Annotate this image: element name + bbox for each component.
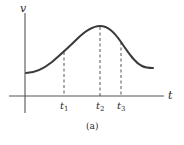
y-axis-label: v (20, 3, 26, 14)
function-plot-figure: v t t1 t2 t3 (a) (0, 0, 184, 145)
tick-label-t1: t1 (60, 101, 69, 113)
tick-label-t2: t2 (96, 101, 105, 113)
function-curve (26, 26, 153, 73)
tick-label-t3: t3 (117, 101, 126, 113)
x-axis-label: t (168, 90, 172, 101)
figure-caption: (a) (86, 122, 98, 131)
